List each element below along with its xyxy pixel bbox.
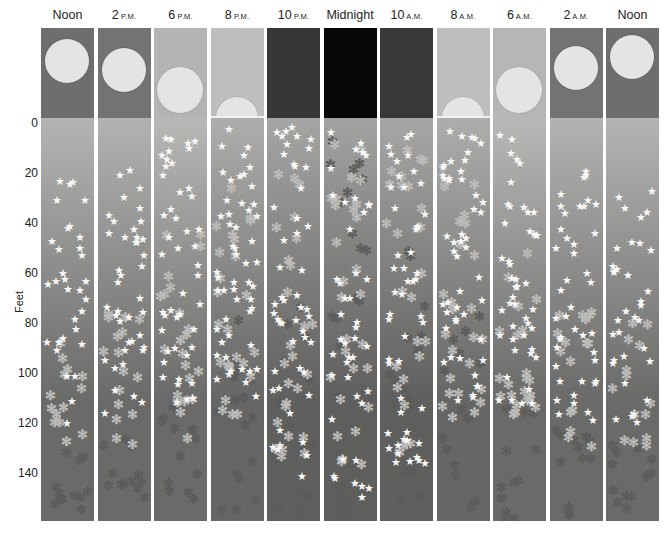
- light-asterisk-organism-icon: ✻: [329, 138, 340, 151]
- star-organism-icon: ★: [463, 146, 473, 157]
- star-organism-icon: ★: [441, 322, 451, 333]
- star-organism-icon: ★: [301, 161, 311, 172]
- light-asterisk-organism-icon: ✻: [522, 247, 533, 260]
- star-organism-icon: ★: [364, 199, 374, 210]
- star-organism-icon: ★: [221, 314, 231, 325]
- star-organism-icon: ★: [363, 386, 373, 397]
- star-organism-icon: ★: [449, 236, 459, 247]
- star-organism-icon: ★: [295, 363, 305, 374]
- time-column-2: 6 P.M.✻✻✻✻✻✻✻✻✻✻✻✻✻✻✻✻✻✻✻✻✻✻✻✻✻✻✻✻✻✻✻✻✻✻…: [154, 0, 207, 538]
- time-value: 8: [225, 8, 232, 22]
- star-organism-icon: ★: [556, 284, 566, 295]
- star-organism-icon: ★: [75, 285, 85, 296]
- star-organism-icon: ★: [298, 325, 308, 336]
- star-organism-icon: ★: [289, 158, 299, 169]
- star-organism-icon: ★: [158, 169, 168, 180]
- star-organism-icon: ★: [221, 352, 231, 363]
- light-asterisk-organism-icon: ✻: [623, 333, 634, 346]
- star-organism-icon: ★: [639, 342, 649, 353]
- star-organism-icon: ★: [351, 454, 361, 465]
- sun-icon: [157, 67, 203, 113]
- time-label: 10 P.M.: [261, 8, 326, 22]
- star-organism-icon: ★: [167, 157, 177, 168]
- light-asterisk-organism-icon: ✻: [392, 227, 403, 240]
- star-organism-icon: ★: [182, 225, 192, 236]
- star-organism-icon: ★: [397, 288, 407, 299]
- star-organism-icon: ★: [556, 188, 566, 199]
- dark-asterisk-organism-icon: ✻: [415, 489, 426, 502]
- dark-asterisk-organism-icon: ✻: [641, 470, 652, 483]
- star-organism-icon: ★: [554, 408, 564, 419]
- star-organism-icon: ★: [281, 125, 291, 136]
- star-organism-icon: ★: [494, 394, 504, 405]
- star-organism-icon: ★: [173, 378, 183, 389]
- star-organism-icon: ★: [164, 231, 174, 242]
- star-organism-icon: ★: [416, 177, 426, 188]
- star-organism-icon: ★: [478, 354, 488, 365]
- time-value: Noon: [53, 8, 83, 22]
- star-organism-icon: ★: [292, 227, 302, 238]
- light-asterisk-organism-icon: ✻: [469, 406, 480, 419]
- time-label: Noon: [600, 8, 665, 22]
- star-organism-icon: ★: [120, 232, 130, 243]
- star-organism-icon: ★: [614, 327, 624, 338]
- star-organism-icon: ★: [507, 273, 517, 284]
- star-organism-icon: ★: [519, 202, 529, 213]
- light-asterisk-organism-icon: ✻: [464, 357, 475, 370]
- light-asterisk-organism-icon: ✻: [414, 350, 425, 363]
- light-asterisk-organism-icon: ✻: [182, 431, 193, 444]
- star-organism-icon: ★: [55, 176, 65, 187]
- star-organism-icon: ★: [500, 218, 510, 229]
- dark-asterisk-organism-icon: ✻: [450, 469, 461, 482]
- star-organism-icon: ★: [269, 202, 279, 213]
- star-organism-icon: ★: [135, 183, 145, 194]
- star-organism-icon: ★: [124, 311, 134, 322]
- star-organism-icon: ★: [328, 189, 338, 200]
- dark-asterisk-organism-icon: ✻: [501, 444, 512, 457]
- time-suffix: P.M.: [119, 12, 137, 21]
- star-organism-icon: ★: [297, 264, 307, 275]
- star-organism-icon: ★: [239, 168, 249, 179]
- star-organism-icon: ★: [620, 202, 630, 213]
- star-organism-icon: ★: [212, 373, 222, 384]
- star-organism-icon: ★: [225, 219, 235, 230]
- water-column: ✻✻✻✻✻✻✻✻✻✻✻✻✻✻✻✻✻✻✻✻✻✻✻✻✻✻✻✻✻✻✻✻✻✻★★★★★★…: [154, 118, 207, 521]
- star-organism-icon: ★: [621, 306, 631, 317]
- axis-title: Feet: [13, 287, 25, 317]
- time-suffix: A.M.: [514, 12, 532, 21]
- star-organism-icon: ★: [609, 265, 619, 276]
- water-column: ✻✻✻✻✻✻✻✻✻✻✻✻✻✻✻✻✻✻✻✻✻✻✻✻✻✻✻✻✻✻✻✻✻✻★★★★★★…: [493, 118, 546, 521]
- star-organism-icon: ★: [515, 158, 525, 169]
- star-organism-icon: ★: [172, 397, 182, 408]
- star-organism-icon: ★: [351, 144, 361, 155]
- star-organism-icon: ★: [52, 195, 62, 206]
- star-organism-icon: ★: [619, 350, 629, 361]
- dark-asterisk-organism-icon: ✻: [231, 504, 242, 517]
- water-column: ✻✻✻✻✻✻✻✻✻✻✻✻✻✻✻✻✻✻✻✻✻✻✻✻✻✻✻✻✻✻✻✻✻✻✻✻✻✻✻✻…: [324, 118, 377, 521]
- star-organism-icon: ★: [187, 191, 197, 202]
- star-organism-icon: ★: [551, 242, 561, 253]
- time-label: Midnight: [318, 8, 383, 22]
- star-organism-icon: ★: [569, 390, 579, 401]
- star-organism-icon: ★: [461, 233, 471, 244]
- star-organism-icon: ★: [157, 249, 167, 260]
- dark-asterisk-organism-icon: ✻: [103, 478, 114, 491]
- sky-panel: [324, 28, 377, 118]
- light-asterisk-organism-icon: ✻: [45, 388, 56, 401]
- time-value: 6: [507, 8, 514, 22]
- star-organism-icon: ★: [517, 397, 527, 408]
- star-organism-icon: ★: [292, 130, 302, 141]
- sky-panel: [154, 28, 207, 118]
- star-organism-icon: ★: [251, 391, 261, 402]
- sky-panel: [550, 28, 603, 118]
- light-asterisk-organism-icon: ✻: [113, 398, 124, 411]
- light-asterisk-organism-icon: ✻: [46, 402, 57, 415]
- axis-tick-140: 140: [18, 466, 38, 480]
- star-organism-icon: ★: [455, 352, 465, 363]
- star-organism-icon: ★: [159, 357, 169, 368]
- dark-asterisk-organism-icon: ✻: [406, 465, 417, 478]
- star-organism-icon: ★: [282, 139, 292, 150]
- water-column: ✻✻✻✻✻✻✻✻✻✻✻✻✻✻✻✻✻✻✻✻✻✻✻✻✻✻✻✻★★★★★★★★★★★★…: [550, 118, 603, 521]
- light-asterisk-organism-icon: ✻: [346, 171, 357, 184]
- star-organism-icon: ★: [224, 329, 234, 340]
